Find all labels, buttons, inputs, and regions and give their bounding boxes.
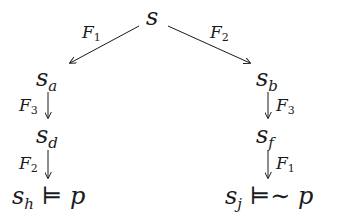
node-sh: sh ⊨ p: [12, 184, 85, 212]
node-sb: sb: [256, 66, 278, 94]
edge-label-s-sb: F2: [210, 24, 229, 43]
edge-label-text: F: [82, 22, 94, 42]
edge-label-sub: 3: [288, 104, 295, 117]
edge-s-sa: [70, 26, 139, 63]
node-sd: sd: [36, 123, 58, 151]
edge-label-sub: 2: [31, 162, 38, 175]
node-sh-sub: h: [24, 195, 34, 213]
edge-label-s-sa: F1: [82, 24, 101, 43]
edge-label-sub: 3: [31, 104, 38, 117]
edge-label-sd-sh: F2: [19, 155, 38, 174]
node-sa-sub: a: [48, 77, 57, 95]
node-sj: sj ⊨∼ p: [225, 184, 313, 212]
edge-label-text: F: [276, 153, 288, 173]
node-s-base: s: [146, 3, 158, 31]
node-sd-base: s: [36, 121, 48, 149]
node-sj-sub: j: [237, 195, 242, 213]
edge-label-text: F: [210, 22, 222, 42]
edge-label-sub: 1: [94, 31, 101, 44]
node-sf-base: s: [256, 121, 268, 149]
models-not-relation: ⊨∼: [250, 182, 291, 210]
models-relation: ⊨: [42, 182, 63, 210]
edge-label-sb-sf: F3: [276, 97, 295, 116]
edge-label-sub: 2: [222, 31, 229, 44]
edge-label-text: F: [19, 153, 31, 173]
edge-label-sub: 1: [288, 162, 295, 175]
node-s: s: [146, 5, 158, 29]
node-sa: sa: [36, 66, 57, 94]
node-sd-sub: d: [48, 134, 58, 152]
edge-label-text: F: [19, 95, 31, 115]
node-sb-sub: b: [268, 77, 278, 95]
node-sh-formula: p: [70, 182, 85, 210]
edge-label-sa-sd: F3: [19, 97, 38, 116]
edge-label-text: F: [276, 95, 288, 115]
edge-s-sb: [168, 26, 250, 63]
node-sj-base: s: [225, 182, 237, 210]
node-sb-base: s: [256, 64, 268, 92]
node-sf: sf: [256, 123, 274, 151]
node-sh-base: s: [12, 182, 24, 210]
node-sj-formula: p: [298, 182, 313, 210]
node-sa-base: s: [36, 64, 48, 92]
edge-label-sf-sj: F1: [276, 155, 295, 174]
node-sf-sub: f: [268, 134, 274, 152]
